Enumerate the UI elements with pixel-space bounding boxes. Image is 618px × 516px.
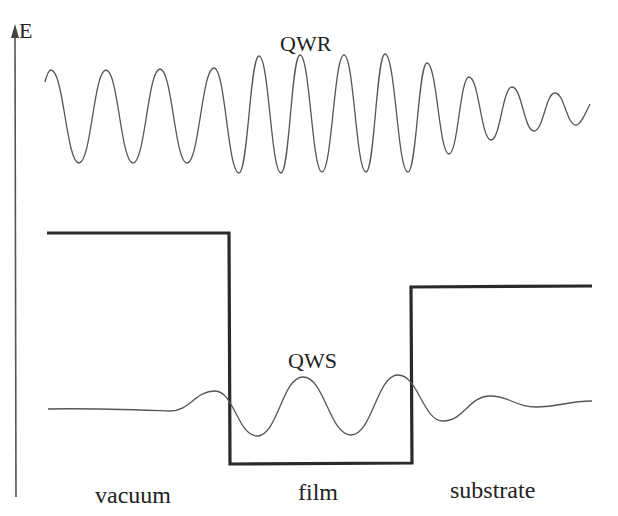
region-label-film: film (298, 479, 338, 505)
region-label-vacuum: vacuum (95, 482, 171, 508)
qws-label: QWS (288, 348, 337, 373)
quantum-well-diagram: E QWR QWS vacuum film substrate (0, 0, 618, 516)
qws-wavefunction (48, 375, 592, 436)
qwr-label: QWR (280, 31, 332, 56)
energy-axis (15, 34, 16, 497)
qwr-wavefunction (45, 54, 590, 173)
energy-axis-label: E (19, 18, 32, 43)
axis-arrow-icon (11, 24, 19, 38)
region-label-substrate: substrate (450, 477, 535, 503)
